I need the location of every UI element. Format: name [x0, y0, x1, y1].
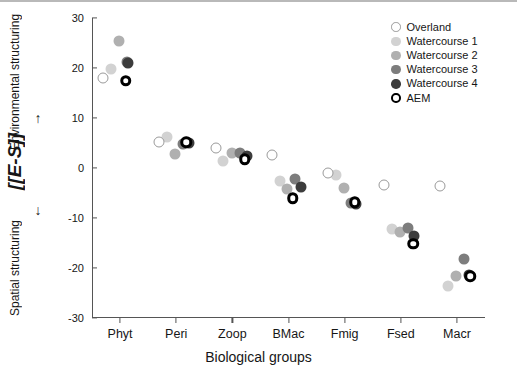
data-point-aem-bmac [287, 192, 299, 204]
x-tick-label-zoop: Zoop [218, 327, 247, 341]
legend-item-wc1[interactable]: Watercourse 1 [391, 34, 515, 48]
data-point-overland-zoop [210, 142, 221, 153]
data-point-wc1-zoop [218, 155, 229, 166]
data-point-overland-fsed [378, 179, 389, 190]
data-point-overland-phyt [98, 73, 109, 84]
y-tick-label--30: -30 [0, 312, 91, 324]
x-tick-label-peri: Peri [165, 327, 187, 341]
x-tick-label-macr: Macr [443, 327, 471, 341]
data-point-overland-bmac [266, 149, 277, 160]
legend-marker-wc3-icon [391, 65, 401, 75]
data-point-aem-fmig [349, 196, 361, 208]
x-tick-label-bmac: BMac [273, 327, 305, 341]
legend-item-wc3[interactable]: Watercourse 3 [391, 63, 515, 77]
data-point-wc2-macr [450, 271, 461, 282]
data-point-overland-fmig [322, 168, 333, 179]
legend-marker-wc2-icon [391, 51, 401, 61]
legend-label-wc2: Watercourse 2 [407, 50, 478, 61]
data-point-wc2-phyt [113, 36, 124, 47]
y-tick-mark--10 [92, 217, 97, 218]
y-tick-mark-10 [92, 117, 97, 118]
legend-label-wc4: Watercourse 4 [407, 78, 478, 89]
legend-label-wc1: Watercourse 1 [407, 36, 478, 47]
data-point-wc4-bmac [295, 182, 306, 193]
x-tick-mark-bmac [288, 318, 289, 323]
y-tick-label-10: 10 [0, 112, 91, 124]
data-point-aem-zoop [239, 153, 251, 165]
data-point-aem-phyt [120, 75, 132, 87]
x-tick-mark-fsed [400, 318, 401, 323]
legend-marker-wc4-icon [391, 79, 401, 89]
x-tick-mark-fmig [344, 318, 345, 323]
legend-marker-aem-icon [391, 93, 401, 103]
data-point-wc3-macr [458, 254, 469, 265]
y-tick-label--20: -20 [0, 262, 91, 274]
legend-label-overland: Overland [407, 22, 452, 33]
legend-marker-wc1-icon [391, 37, 401, 47]
x-tick-mark-macr [456, 318, 457, 323]
y-tick-mark-30 [92, 17, 97, 18]
data-point-overland-peri [154, 136, 165, 147]
y-tick-mark--30 [92, 317, 97, 318]
x-tick-label-fmig: Fmig [331, 327, 359, 341]
x-axis-title: Biological groups [0, 349, 517, 365]
data-point-wc4-phyt [122, 57, 133, 68]
data-point-wc1-macr [442, 281, 453, 292]
data-point-aem-peri [181, 136, 193, 148]
data-point-aem-fsed [407, 238, 419, 250]
figure-canvas: Environmental structuring ↑ [[E-S]] ↓ Sp… [0, 0, 517, 377]
data-point-wc2-fmig [338, 183, 349, 194]
x-tick-mark-phyt [119, 318, 120, 323]
x-tick-label-phyt: Phyt [108, 327, 133, 341]
legend-label-aem: AEM [407, 93, 431, 104]
y-tick-label-20: 20 [0, 62, 91, 74]
y-tick-mark-0 [92, 167, 97, 168]
x-tick-label-fsed: Fsed [387, 327, 415, 341]
legend-item-overland[interactable]: Overland [391, 20, 515, 34]
legend-item-wc4[interactable]: Watercourse 4 [391, 77, 515, 91]
data-point-overland-macr [435, 180, 446, 191]
y-tick-label--10: -10 [0, 212, 91, 224]
y-tick-mark-20 [92, 67, 97, 68]
y-tick-mark--20 [92, 267, 97, 268]
x-tick-mark-zoop [232, 318, 233, 323]
legend-item-aem[interactable]: AEM [391, 91, 515, 105]
y-tick-label-0: 0 [0, 162, 91, 174]
x-tick-mark-peri [176, 318, 177, 323]
data-point-wc1-phyt [106, 63, 117, 74]
legend: OverlandWatercourse 1Watercourse 2Waterc… [391, 20, 515, 105]
legend-marker-overland-icon [391, 22, 401, 32]
y-tick-label-30: 30 [0, 12, 91, 24]
legend-item-wc2[interactable]: Watercourse 2 [391, 48, 515, 62]
data-point-aem-macr [465, 270, 477, 282]
data-point-wc2-peri [170, 149, 181, 160]
legend-label-wc3: Watercourse 3 [407, 64, 478, 75]
